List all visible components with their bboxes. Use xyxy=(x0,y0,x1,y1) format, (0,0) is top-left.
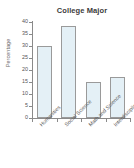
y-tick-label: 0 xyxy=(25,115,28,120)
y-tick-mark xyxy=(29,94,32,95)
y-tick-mark xyxy=(29,106,32,107)
x-tick-mark xyxy=(106,118,107,122)
y-tick-label: 35 xyxy=(22,31,28,36)
bar xyxy=(61,26,76,118)
y-tick-mark xyxy=(29,22,32,23)
y-tick-label: 5 xyxy=(25,103,28,108)
y-tick-mark xyxy=(29,34,32,35)
y-tick-mark xyxy=(29,58,32,59)
y-tick-label: 20 xyxy=(22,67,28,72)
y-tick-label: 40 xyxy=(22,19,28,24)
y-tick-mark xyxy=(29,82,32,83)
y-axis-label: Percentage xyxy=(5,21,11,85)
y-tick-mark xyxy=(29,46,32,47)
y-tick-mark xyxy=(29,70,32,71)
x-tick-mark xyxy=(57,118,58,122)
y-tick-label: 25 xyxy=(22,55,28,60)
bar xyxy=(37,46,52,118)
x-tick-mark xyxy=(81,118,82,122)
y-tick-label: 30 xyxy=(22,43,28,48)
y-tick-label: 10 xyxy=(22,91,28,96)
chart-title: College Major xyxy=(30,6,134,15)
y-tick-label: 15 xyxy=(22,79,28,84)
bar-chart: College Major Percentage 051015202530354… xyxy=(0,0,134,168)
x-tick-mark xyxy=(130,118,131,122)
x-tick-mark xyxy=(32,118,33,122)
